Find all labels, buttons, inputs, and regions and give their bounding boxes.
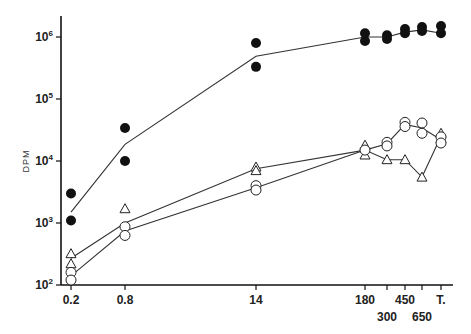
- open-circle-marker: [417, 118, 427, 128]
- x-tick-label: 650: [412, 310, 432, 324]
- open-circle-marker: [417, 128, 427, 138]
- y-tick-label: 106: [35, 29, 53, 44]
- x-tick-label: 300: [377, 310, 397, 324]
- filled-circle-marker: [417, 26, 427, 36]
- x-tick-label: 450: [395, 293, 415, 307]
- x-tick-label: 180: [355, 293, 375, 307]
- filled-circle-marker: [66, 188, 76, 198]
- x-tick-label: 0.8: [117, 293, 134, 307]
- filled-circle-marker: [382, 34, 392, 44]
- x-tick-label: 14: [249, 293, 263, 307]
- filled-circle-marker: [120, 123, 130, 133]
- open-triangle-marker: [66, 249, 76, 258]
- y-axis-title: DPM: [21, 150, 31, 173]
- open-circle-marker: [400, 122, 410, 132]
- filled-circle-marker: [360, 36, 370, 46]
- y-ticks: 102103104105106: [35, 29, 61, 292]
- open-circle-marker: [66, 275, 76, 285]
- open-triangle-marker: [120, 204, 130, 213]
- x-tick-label: T.: [436, 293, 445, 307]
- dpm-chart: 102103104105106 0.20.814180300450650T. D…: [0, 0, 471, 334]
- filled-circle-marker: [66, 215, 76, 225]
- open-circle-marker: [360, 145, 370, 155]
- x-ticks: 0.20.814180300450650T.: [63, 285, 446, 324]
- open-circle-marker: [382, 141, 392, 151]
- y-tick-label: 102: [35, 277, 53, 292]
- y-tick-label: 103: [35, 215, 53, 230]
- y-tick-label: 104: [35, 153, 53, 168]
- y-tick-label: 105: [35, 91, 53, 106]
- filled-circle-marker: [436, 28, 446, 38]
- open-circle-marker: [436, 138, 446, 148]
- filled-circle-marker: [120, 156, 130, 166]
- filled-circle-marker: [400, 28, 410, 38]
- open-circle-marker: [120, 230, 130, 240]
- filled-circle-marker: [251, 38, 261, 48]
- x-tick-label: 0.2: [63, 293, 80, 307]
- series-markers: [66, 21, 446, 285]
- open-circle-marker: [251, 185, 261, 195]
- open-triangle-marker: [66, 259, 76, 268]
- filled-circle-marker: [251, 62, 261, 72]
